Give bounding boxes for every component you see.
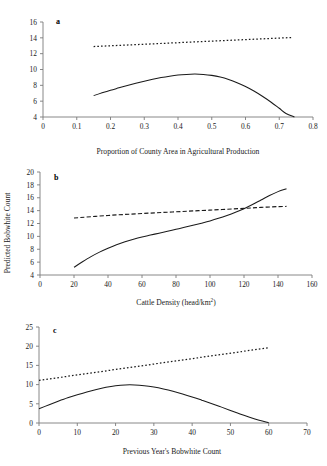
panel-tag-b: b <box>54 173 59 182</box>
x-tick-label: 140 <box>272 280 283 289</box>
chart-panel-b: 020406080100120140160468101214161820 b C… <box>0 155 327 307</box>
panel-c-axes: 0102030405060700510152025 <box>26 323 311 437</box>
curve-solid-curve <box>39 385 269 423</box>
x-tick-label: 120 <box>238 280 249 289</box>
y-tick-label: 14 <box>27 206 35 215</box>
x-tick-label: 60 <box>138 280 146 289</box>
panel-b-xaxis-title-base: Cattle Density (head/km <box>136 298 210 307</box>
curve-dotted-line <box>94 37 293 46</box>
y-tick-label: 10 <box>30 65 38 74</box>
x-tick-label: 0.3 <box>140 122 150 131</box>
panel-a-curves <box>94 37 295 117</box>
x-tick-label: 0.8 <box>308 122 318 131</box>
x-tick-label: 40 <box>188 428 196 437</box>
y-tick-label: 10 <box>27 232 35 241</box>
x-tick-label: 80 <box>172 280 180 289</box>
panel-tag-c: c <box>53 326 57 335</box>
x-tick-label: 0 <box>37 428 41 437</box>
x-tick-label: 0.6 <box>241 122 251 131</box>
y-tick-label: 0 <box>29 419 33 428</box>
y-tick-label: 25 <box>26 323 34 332</box>
x-tick-label: 10 <box>74 428 82 437</box>
y-tick-label: 14 <box>30 34 38 43</box>
y-tick-label: 4 <box>30 271 34 280</box>
y-tick-label: 4 <box>33 113 37 122</box>
y-tick-label: 10 <box>26 380 34 389</box>
x-tick-label: 0.1 <box>72 122 82 131</box>
panel-b-svg: 020406080100120140160468101214161820 b C… <box>0 155 327 307</box>
x-tick-label: 20 <box>70 280 78 289</box>
figure-container: 00.10.20.30.40.50.60.70.846810121416 a P… <box>0 0 327 466</box>
y-tick-label: 6 <box>33 97 37 106</box>
panel-b-xaxis-title-tail: ) <box>213 298 216 307</box>
chart-panel-a: 00.10.20.30.40.50.60.70.846810121416 a P… <box>0 0 327 158</box>
x-tick-label: 60 <box>265 428 273 437</box>
panel-c-xaxis-title: Previous Year's Bobwhite Count <box>123 447 222 456</box>
panel-a-svg: 00.10.20.30.40.50.60.70.846810121416 a P… <box>0 0 327 158</box>
curve-dashed-line <box>74 206 287 218</box>
curve-solid-curve <box>94 74 295 117</box>
x-tick-label: 0.4 <box>173 122 183 131</box>
panel-a-axes: 00.10.20.30.40.50.60.70.846810121416 <box>30 18 318 131</box>
chart-panel-c: 0102030405060700510152025 c Previous Yea… <box>0 307 327 466</box>
x-tick-label: 30 <box>150 428 158 437</box>
y-tick-label: 12 <box>30 49 38 58</box>
y-tick-label: 12 <box>27 219 35 228</box>
panel-c-svg: 0102030405060700510152025 c Previous Yea… <box>0 307 327 466</box>
panel-b-axes: 020406080100120140160468101214161820 <box>27 168 318 289</box>
y-tick-label: 8 <box>30 245 34 254</box>
x-tick-label: 0.5 <box>207 122 217 131</box>
panel-b-curves <box>74 189 287 268</box>
y-tick-label: 20 <box>27 168 35 177</box>
curve-solid-curve <box>74 189 287 268</box>
x-tick-label: 0.2 <box>106 122 116 131</box>
shared-yaxis-title: Predicted Bobwhite Count <box>3 192 12 273</box>
panel-b-xaxis-title: Cattle Density (head/km2) <box>136 297 216 307</box>
y-tick-label: 8 <box>33 81 37 90</box>
y-tick-label: 16 <box>30 18 38 27</box>
x-tick-label: 20 <box>112 428 120 437</box>
y-tick-label: 15 <box>26 361 34 370</box>
x-tick-label: 0.7 <box>275 122 285 131</box>
x-tick-label: 0 <box>41 122 45 131</box>
y-tick-label: 5 <box>29 400 33 409</box>
y-tick-label: 20 <box>26 342 34 351</box>
panel-c-curves <box>39 348 269 423</box>
y-tick-label: 16 <box>27 193 35 202</box>
y-tick-label: 18 <box>27 181 35 190</box>
x-tick-label: 40 <box>104 280 112 289</box>
panel-tag-a: a <box>56 17 60 26</box>
x-tick-label: 0 <box>38 280 42 289</box>
x-tick-label: 50 <box>227 428 235 437</box>
x-tick-label: 100 <box>204 280 215 289</box>
y-tick-label: 6 <box>30 258 34 267</box>
x-tick-label: 70 <box>303 428 311 437</box>
x-tick-label: 160 <box>306 280 317 289</box>
curve-dotted-line <box>39 348 269 381</box>
